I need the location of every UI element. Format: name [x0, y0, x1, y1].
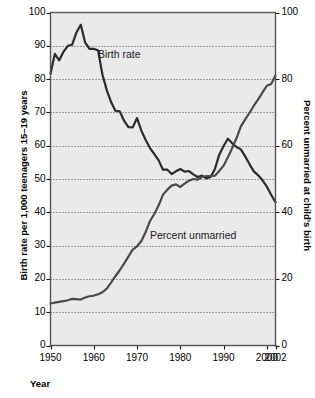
series-label-birth-rate: Birth rate [98, 48, 141, 60]
y-axis-left-tick-label: 10 [22, 306, 46, 317]
y-axis-left-tick-label: 50 [22, 173, 46, 184]
y-axis-left-tick-label: 40 [22, 206, 46, 217]
series-label-percent-unmarried: Percent unmarried [150, 229, 236, 241]
y-axis-right-tick-label: 20 [282, 272, 308, 283]
x-axis-tick-label: 1970 [120, 352, 154, 363]
y-axis-right-tick-label: 60 [282, 139, 308, 150]
x-axis-tick-label: 1990 [207, 352, 241, 363]
y-axis-left-tick-label: 80 [22, 73, 46, 84]
chart-figure: Birth rate per 1,000 teenagers 15–19 yea… [0, 0, 315, 398]
x-axis-tick-label: 1960 [77, 352, 111, 363]
y-axis-left-tick-label: 30 [22, 239, 46, 250]
y-axis-right-tick-label: 40 [282, 206, 308, 217]
y-axis-left-tick-label: 70 [22, 106, 46, 117]
plot-canvas [0, 0, 315, 398]
x-axis-tick-label: 1950 [34, 352, 68, 363]
x-axis-tick-label: 2002 [259, 352, 293, 363]
y-axis-left-tick-label: 100 [22, 6, 46, 17]
y-axis-right-tick-label: 80 [282, 73, 308, 84]
y-axis-left-tick-label: 20 [22, 272, 46, 283]
y-axis-left-tick-label: 90 [22, 39, 46, 50]
x-axis-tick-label: 1980 [163, 352, 197, 363]
y-axis-right-tick-label: 100 [282, 6, 308, 17]
y-axis-left-tick-label: 60 [22, 139, 46, 150]
y-axis-right-tick-label: 0 [282, 339, 308, 350]
y-axis-left-tick-label: 0 [22, 339, 46, 350]
